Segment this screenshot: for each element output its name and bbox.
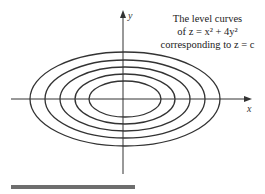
x-axis-label: x [246,103,252,114]
caption-line-3: corresponding to z = c [150,38,265,51]
caption-line-2: of z = x² + 4y² [150,25,265,38]
caption-line-1: The level curves [150,12,265,25]
figure-caption: The level curves of z = x² + 4y² corresp… [150,12,265,51]
bottom-bar [11,185,135,189]
y-axis-arrow-icon [120,10,126,18]
y-axis-label: y [127,10,133,21]
x-axis-arrow-icon [244,96,252,102]
